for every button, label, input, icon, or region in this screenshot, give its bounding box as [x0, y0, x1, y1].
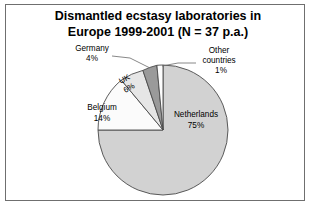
slice-label-other-countries-name-2: countries	[202, 56, 235, 65]
slice-label-other-countries-name-1: Other	[209, 46, 230, 55]
chart-title-line-1: Dismantled ecstasy laboratories in	[55, 9, 261, 23]
slice-label-netherlands-name: Netherlands	[174, 110, 218, 119]
chart-title-line-2: Europe 1999-2001 (N = 37 p.a.)	[68, 25, 248, 39]
slice-label-other-countries-value: 1%	[215, 66, 227, 75]
pie-chart-figure: Dismantled ecstasy laboratories in Europ…	[0, 0, 315, 208]
slice-label-netherlands-value: 75%	[188, 121, 204, 130]
leader-line-germany	[112, 56, 150, 68]
slice-label-belgium-value: 14%	[94, 114, 110, 123]
slice-label-germany-value: 4%	[86, 54, 98, 63]
pie-chart-canvas: Dismantled ecstasy laboratories in Europ…	[0, 0, 315, 208]
slice-label-belgium-name: Belgium	[87, 103, 117, 112]
slice-label-germany-name: Germany	[75, 44, 110, 53]
